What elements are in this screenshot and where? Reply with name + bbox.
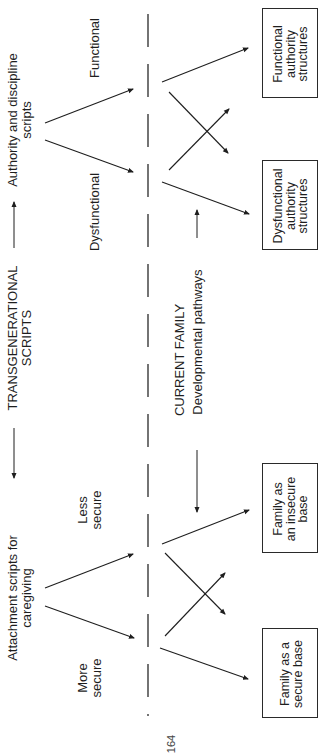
arrow-authority-to-dysfunctional <box>45 140 133 172</box>
functional-authority-box: Functional authority structures <box>262 8 318 98</box>
less-secure-branch-label: Less secure <box>76 490 103 529</box>
secure-base-box: Family as a secure base <box>262 628 318 718</box>
arrow-functional-to-functional-box <box>162 48 248 82</box>
arrow-attachment-to-less-secure <box>45 554 133 588</box>
dysfunctional-authority-box: Dysfunctional authority structures <box>262 160 318 250</box>
functional-authority-box-label: Functional authority structures <box>272 25 310 83</box>
arrow-authority-to-functional <box>45 89 133 123</box>
functional-branch-label: Functional <box>88 18 102 78</box>
current-family-label: CURRENT FAMILY <box>173 304 187 416</box>
attachment-scripts-label: Attachment scripts for caregiving <box>6 535 33 661</box>
dysfunctional-branch-label: Dysfunctional <box>88 173 102 251</box>
insecure-base-box: Family as an insecure base <box>262 463 318 553</box>
authority-discipline-scripts-label: Authority and discipline scripts <box>6 53 33 187</box>
arrow-less-secure-to-insecure-box <box>162 510 249 544</box>
secure-base-box-label: Family as a secure base <box>279 640 304 708</box>
dysfunctional-authority-box-label: Dysfunctional authority structures <box>272 168 310 243</box>
arrow-more-secure-to-secure-box <box>160 648 248 679</box>
transgenerational-scripts-label: TRANSGENERATIONAL SCRIPTS <box>6 266 33 411</box>
page-number: 164 <box>166 735 178 753</box>
arrow-dysfunctional-to-dysfunctional-box <box>162 182 249 214</box>
developmental-pathways-label: Developmental pathways <box>191 269 205 414</box>
arrow-dysfunctional-cross-up <box>169 109 229 170</box>
more-secure-branch-label: More secure <box>76 658 103 697</box>
arrow-functional-cross-down <box>169 92 228 153</box>
insecure-base-box-label: Family as an insecure base <box>272 477 310 542</box>
arrow-attachment-to-more-secure <box>45 606 134 638</box>
